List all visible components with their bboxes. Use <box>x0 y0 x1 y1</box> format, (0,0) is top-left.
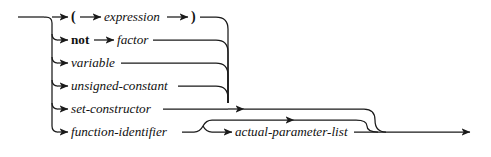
nonterminal-expression: expression <box>104 9 160 24</box>
nonterminal-actual-parameter-list: actual-parameter-list <box>235 124 348 139</box>
nonterminal-unsigned-constant: unsigned-constant <box>71 78 168 93</box>
row4-to-collector <box>178 86 228 103</box>
optional-bypass-riser <box>182 120 212 132</box>
row1-to-collector <box>200 17 228 103</box>
terminal-close-paren: ) <box>191 9 196 25</box>
nonterminal-function-identifier: function-identifier <box>71 124 168 139</box>
nonterminal-set-constructor: set-constructor <box>71 101 152 116</box>
arrow-into-actual-parameter-list <box>203 126 232 132</box>
railroad-diagram: ( expression ) not factor variable unsig… <box>0 0 491 157</box>
row2-to-collector <box>153 40 228 103</box>
branch-stub-unsigned-constant <box>52 80 58 86</box>
keyword-not: not <box>71 32 90 47</box>
branch-spine <box>44 17 58 132</box>
railroad-diagram-canvas: ( expression ) not factor variable unsig… <box>0 0 491 157</box>
branch-stub-not <box>52 34 58 40</box>
terminal-open-paren: ( <box>71 9 76 25</box>
branch-stub-variable <box>52 57 58 63</box>
branch-stub-set-constructor <box>52 103 58 109</box>
nonterminal-variable: variable <box>71 55 115 70</box>
nonterminal-factor: factor <box>117 32 149 47</box>
